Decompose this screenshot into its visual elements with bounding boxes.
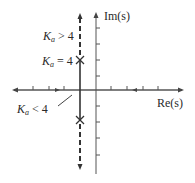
arrow-up-icon bbox=[78, 13, 83, 19]
root-locus-branch bbox=[78, 13, 83, 170]
re-axis-label: Re(s) bbox=[157, 97, 183, 109]
label-ka-less-4: Ka < 4 bbox=[17, 103, 48, 117]
locus-arrow-icon bbox=[132, 88, 137, 92]
arrow-left-icon bbox=[12, 88, 18, 93]
label-ka-greater-4: Ka > 4 bbox=[43, 30, 74, 44]
leader-line bbox=[58, 95, 72, 106]
im-axis-label: Im(s) bbox=[104, 10, 130, 22]
arrow-down-icon bbox=[78, 164, 83, 170]
arrow-up-icon bbox=[94, 12, 99, 18]
real-axis bbox=[12, 86, 184, 93]
arrow-right-icon bbox=[178, 88, 184, 93]
label-ka-equal-4: Ka = 4 bbox=[42, 55, 73, 69]
locus-arrow-icon bbox=[55, 88, 60, 92]
root-locus-plot bbox=[0, 0, 195, 183]
imaginary-axis bbox=[94, 12, 101, 174]
